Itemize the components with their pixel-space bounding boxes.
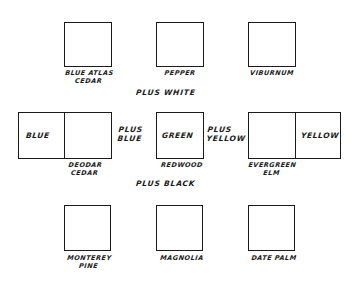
swatch-box-deodar-cedar-pair: BLUE — [18, 112, 112, 159]
operator-plus-blue: PLUS BLUE — [117, 126, 143, 143]
label-evergreen-elm: EVERGREEN ELM — [239, 161, 305, 177]
swatch-box-evergreen-elm-pair: YELLOW — [248, 112, 341, 159]
color-cell-blue: BLUE — [26, 131, 51, 140]
swatch-box-viburnum — [248, 22, 296, 67]
color-cell-yellow: YELLOW — [301, 131, 340, 140]
swatch-box-blue-atlas-cedar — [64, 22, 112, 67]
swatch-box-date-palm — [248, 205, 295, 251]
swatch-box-monterey-pine — [64, 205, 111, 251]
swatch-box-magnolia — [156, 205, 203, 251]
operator-plus-black: PLUS BLACK — [136, 180, 196, 189]
swatch-box-pepper — [156, 22, 204, 67]
label-magnolia: MAGNOLIA — [150, 254, 215, 262]
box-divider — [295, 113, 296, 158]
label-pepper: PEPPER — [150, 69, 211, 77]
operator-plus-white: PLUS WHITE — [136, 89, 196, 98]
label-date-palm: DATE PALM — [242, 254, 307, 262]
label-redwood: REDWOOD — [150, 161, 215, 169]
label-viburnum: VIBURNUM — [240, 69, 305, 77]
box-divider — [64, 113, 65, 158]
label-deodar-cedar: DEODAR CEDAR — [55, 161, 115, 177]
operator-plus-yellow: PLUS YELLOW — [206, 126, 247, 143]
color-cell-green: GREEN — [162, 131, 194, 140]
swatch-box-redwood: GREEN — [156, 112, 204, 159]
label-monterey-pine: MONTEREY PINE — [57, 254, 121, 270]
label-blue-atlas-cedar: BLUE ATLAS CEDAR — [55, 69, 123, 85]
